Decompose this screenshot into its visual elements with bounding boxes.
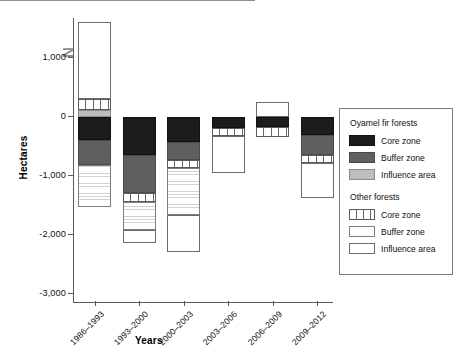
bar-segment bbox=[78, 99, 111, 109]
bar-segment bbox=[78, 117, 111, 140]
bar-segment bbox=[301, 163, 334, 198]
y-tick-label: -1,000 bbox=[0, 170, 66, 180]
x-tick-mark bbox=[184, 301, 185, 306]
y-axis-title: Hectares bbox=[18, 108, 29, 208]
y-axis-line bbox=[73, 18, 74, 302]
bar-group bbox=[78, 0, 111, 302]
y-tick-mark bbox=[68, 175, 74, 176]
legend-item[interactable]: Buffer zone bbox=[349, 224, 452, 239]
x-tick-mark bbox=[273, 301, 274, 306]
bar-group bbox=[256, 0, 289, 302]
legend-group-title: Other forests bbox=[350, 192, 452, 202]
x-axis-title: Years bbox=[135, 335, 163, 346]
bar-segment bbox=[212, 128, 245, 136]
x-tick-label: 1986–1993 bbox=[66, 309, 106, 349]
bar-segment bbox=[256, 127, 289, 137]
legend-swatch-oyamel-influence bbox=[349, 169, 375, 180]
legend-label: Influence area bbox=[381, 244, 435, 254]
bar-segment bbox=[212, 117, 245, 128]
bar-segment bbox=[78, 165, 111, 207]
legend-label: Core zone bbox=[381, 210, 421, 220]
y-tick-label: 1,000 bbox=[0, 52, 66, 62]
x-tick-label: 2003–2006 bbox=[199, 309, 239, 349]
legend-item[interactable]: Core zone bbox=[349, 207, 452, 222]
bar-segment bbox=[123, 193, 156, 202]
bar-group bbox=[301, 0, 334, 302]
legend-label: Influence area bbox=[381, 170, 435, 180]
bar-segment bbox=[167, 117, 200, 142]
x-tick-label: 2009–2012 bbox=[288, 309, 328, 349]
x-tick-mark bbox=[228, 301, 229, 306]
legend-swatch-oyamel-core bbox=[349, 135, 375, 146]
legend-label: Core zone bbox=[381, 136, 421, 146]
x-tick-mark bbox=[139, 301, 140, 306]
x-tick-mark bbox=[95, 301, 96, 306]
bar-group bbox=[212, 0, 245, 302]
bar-segment bbox=[212, 136, 245, 173]
bar-segment bbox=[167, 215, 200, 252]
bar-segment bbox=[301, 155, 334, 163]
y-tick-label: -2,000 bbox=[0, 229, 66, 239]
legend-label: Buffer zone bbox=[381, 153, 425, 163]
y-tick-mark bbox=[68, 293, 74, 294]
y-tick-mark bbox=[68, 116, 74, 117]
legend-label: Buffer zone bbox=[381, 227, 425, 237]
stacked-bar-chart: Hectares N 3,0001,0000-1,000-2,000-3,000… bbox=[0, 0, 460, 353]
y-tick-label: 0 bbox=[0, 111, 66, 121]
bar-segment bbox=[256, 117, 289, 127]
bar-segment bbox=[301, 135, 334, 155]
bar-segment bbox=[123, 155, 156, 193]
legend-swatch-oyamel-buffer bbox=[349, 152, 375, 163]
y-tick-mark bbox=[68, 57, 74, 58]
legend-item[interactable]: Buffer zone bbox=[349, 150, 452, 165]
x-axis-line bbox=[73, 302, 333, 303]
legend-item[interactable]: Influence area bbox=[349, 241, 452, 256]
y-tick-mark bbox=[68, 234, 74, 235]
bar-segment bbox=[123, 230, 156, 243]
bar-segment bbox=[123, 202, 156, 230]
bar-segment bbox=[78, 22, 111, 100]
bar-group bbox=[167, 0, 200, 302]
bar-segment bbox=[167, 160, 200, 168]
bar-segment bbox=[256, 102, 289, 116]
bar-segment bbox=[78, 110, 111, 117]
bar-group bbox=[123, 0, 156, 302]
legend-swatch-other-influence bbox=[349, 243, 375, 254]
legend-item[interactable]: Influence area bbox=[349, 167, 452, 182]
y-tick-label: -3,000 bbox=[0, 288, 66, 298]
bar-segment bbox=[167, 142, 200, 160]
legend-item[interactable]: Core zone bbox=[349, 133, 452, 148]
legend: Oyamel fir forestsCore zoneBuffer zoneIn… bbox=[339, 108, 453, 275]
bar-segment bbox=[301, 117, 334, 135]
bar-segment bbox=[78, 140, 111, 165]
bar-segment bbox=[123, 117, 156, 155]
bar-segment bbox=[167, 168, 200, 215]
legend-swatch-other-core bbox=[349, 209, 375, 220]
legend-swatch-other-buffer bbox=[349, 226, 375, 237]
x-tick-label: 2006–2009 bbox=[244, 309, 284, 349]
legend-group-title: Oyamel fir forests bbox=[350, 118, 452, 128]
x-tick-mark bbox=[317, 301, 318, 306]
